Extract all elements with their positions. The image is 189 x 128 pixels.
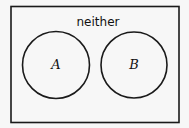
set-a-label: A [50,57,60,72]
venn-diagram: neither A B [0,0,189,128]
set-b-label: B [128,57,139,72]
universe-label: neither [77,15,120,29]
